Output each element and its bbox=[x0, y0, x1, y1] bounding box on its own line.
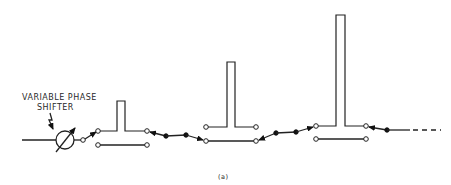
switch-arm bbox=[85, 132, 96, 139]
stub-2 bbox=[204, 62, 259, 143]
output-continuation bbox=[369, 127, 441, 132]
phase-shifter-label-line1: VARIABLE PHASE bbox=[22, 93, 97, 102]
figure-caption: (a) bbox=[218, 173, 229, 181]
label-pointer-arrow bbox=[49, 113, 53, 129]
switch-link-2-3 bbox=[259, 127, 313, 140]
switch-link-1-2 bbox=[150, 132, 203, 140]
stub-3 bbox=[314, 15, 369, 141]
phase-shifter-label-line2: SHIFTER bbox=[37, 103, 74, 112]
phase-shifter-stub-diagram: VARIABLE PHASE SHIFTER bbox=[0, 0, 451, 185]
node-open bbox=[81, 138, 86, 143]
stub-1 bbox=[96, 101, 150, 147]
variable-phase-shifter bbox=[56, 128, 75, 152]
